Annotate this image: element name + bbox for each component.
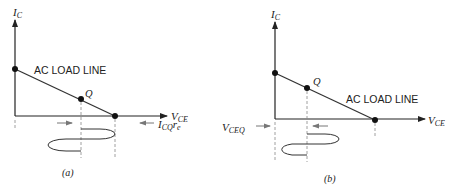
x-axis-label: VCE [428,114,445,128]
ic-intercept-point [12,66,18,72]
panel-a: IC VCE AC LOAD LINE Q ICQre (a) [12,6,188,179]
q-label: Q [85,88,93,99]
q-label: Q [313,76,321,87]
diagram-canvas: IC VCE AC LOAD LINE Q ICQre (a) IC VCE A… [0,0,453,193]
y-axis-label: IC [12,6,23,20]
load-line-label: AC LOAD LINE [34,64,106,76]
signal-swing-waveform [282,134,339,155]
panel-b: IC VCE AC LOAD LINE Q VCEQ (b) [222,8,445,185]
signal-swing-waveform [48,129,115,151]
ac-load-line [15,69,115,116]
vceq-label: VCEQ [222,121,245,135]
q-point [78,96,84,102]
load-line-label: AC LOAD LINE [346,93,418,105]
caption-b: (b) [324,173,336,185]
vce-intercept-point [112,113,118,119]
caption-a: (a) [62,167,74,179]
ic-intercept-point [272,70,278,76]
q-point [304,85,310,91]
vce-intercept-point [372,117,378,123]
y-axis-label: IC [270,8,281,22]
